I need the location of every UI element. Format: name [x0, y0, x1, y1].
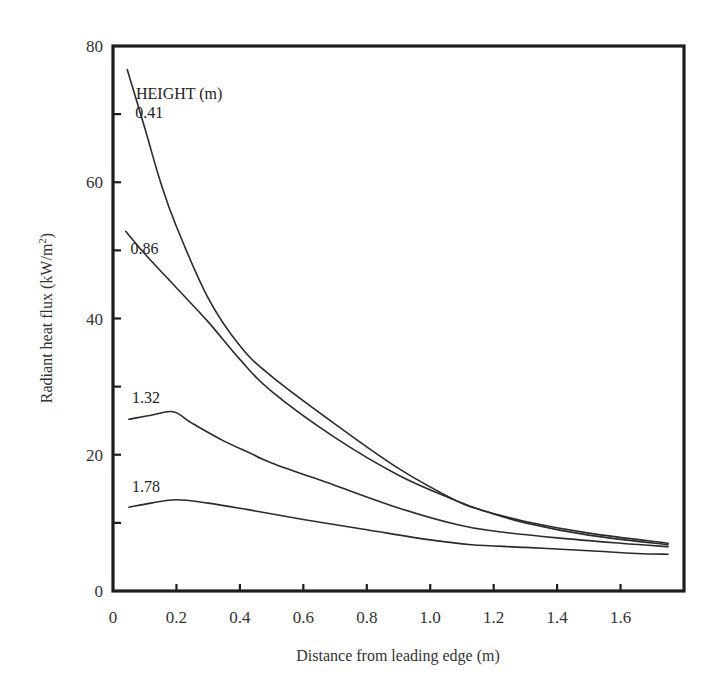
curve-height-1-32 [129, 411, 668, 546]
x-tick-label: 1.2 [483, 608, 504, 627]
curve-label-1-32: 1.32 [132, 389, 160, 406]
x-tick-label: 0 [109, 608, 118, 627]
y-axis-title-main: Radiant heat flux (kW/m [38, 243, 56, 403]
radiant-heat-flux-chart: 0.410.861.321.78 HEIGHT (m) 00.20.40.60.… [0, 0, 718, 695]
legend-title: HEIGHT (m) [136, 85, 222, 103]
curve-height-0-86 [126, 231, 668, 544]
y-tick-label: 80 [86, 37, 103, 56]
plot-frame [113, 46, 684, 591]
x-tick-label: 0.6 [293, 608, 314, 627]
y-axis-ticks: 020406080 [86, 37, 121, 601]
y-tick-label: 60 [86, 173, 103, 192]
curve-label-1-78: 1.78 [132, 478, 160, 495]
x-tick-label: 1.0 [420, 608, 441, 627]
y-tick-label: 40 [86, 310, 103, 329]
curve-labels: 0.410.861.321.78 [130, 104, 163, 495]
y-tick-label: 0 [95, 582, 104, 601]
curve-label-0-41: 0.41 [135, 104, 163, 121]
curve-height-0-41 [127, 70, 668, 544]
x-tick-label: 1.4 [546, 608, 568, 627]
plot-curves [126, 70, 668, 554]
x-tick-label: 0.2 [166, 608, 187, 627]
curve-label-0-86: 0.86 [130, 240, 158, 257]
y-axis-title-close: ) [38, 233, 56, 238]
y-tick-label: 20 [86, 446, 103, 465]
x-tick-label: 0.4 [229, 608, 251, 627]
x-axis-title: Distance from leading edge (m) [296, 647, 499, 665]
x-tick-label: 1.6 [610, 608, 631, 627]
x-tick-label: 0.8 [356, 608, 377, 627]
y-axis-title: Radiant heat flux (kW/m2) [36, 233, 56, 403]
